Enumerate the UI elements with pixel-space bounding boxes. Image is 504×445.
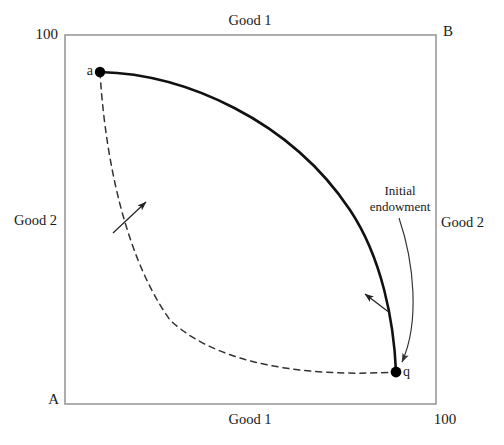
dashed-indifference-curve: [100, 72, 396, 373]
initial-endowment-arrow: [399, 218, 413, 362]
solid-indifference-curve: [100, 72, 396, 372]
box-frame: [65, 35, 436, 404]
origin-a-label: A: [48, 392, 59, 407]
initial-endowment-line2: endowment: [370, 199, 431, 215]
top-axis-label: Good 1: [228, 13, 271, 28]
origin-b-label: B: [443, 24, 453, 39]
left-axis-label: Good 2: [14, 213, 57, 228]
initial-endowment-line1: Initial: [370, 183, 431, 199]
x-axis-max-tick: 100: [434, 412, 457, 427]
initial-endowment-annotation: Initial endowment: [370, 183, 431, 216]
right-axis-label: Good 2: [441, 215, 484, 230]
point-a-marker: [95, 67, 105, 77]
dashed-curve-pointer-arrow: [113, 202, 146, 233]
diagram-canvas: [0, 0, 504, 445]
point-q-marker: [391, 367, 402, 378]
bottom-axis-label: Good 1: [228, 412, 271, 427]
point-q-label: q: [403, 365, 410, 379]
point-a-label: a: [87, 64, 93, 78]
edgeworth-box-figure: Good 1 Good 1 Good 2 Good 2 100 100 A B …: [0, 0, 504, 445]
y-axis-max-tick: 100: [36, 27, 59, 42]
edgeworth-box-rect: [65, 35, 436, 404]
